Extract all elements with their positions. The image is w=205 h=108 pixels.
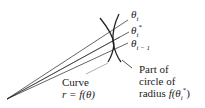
label-theta-i-star: θi* <box>131 25 142 36</box>
label-curve: Curve <box>62 77 89 88</box>
label-circle-of: circle of <box>139 76 175 87</box>
label-radius: radius f(θi*) <box>139 88 190 99</box>
circle-arc <box>113 14 121 62</box>
curve-r-f-theta <box>100 18 114 62</box>
circle-leader <box>122 60 132 68</box>
label-curve-equation: r = f(θ) <box>62 89 95 100</box>
curve-leader <box>86 63 108 74</box>
label-theta-i: θi <box>131 9 138 20</box>
label-part-of: Part of <box>139 64 169 75</box>
label-theta-i-minus-1: θi − 1 <box>131 38 150 49</box>
